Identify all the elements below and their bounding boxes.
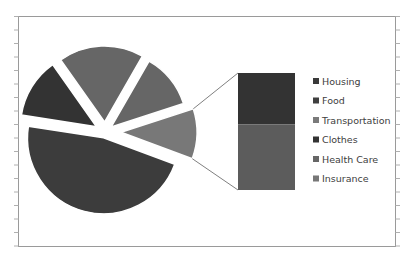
legend-label-housing: Housing	[322, 76, 361, 87]
chart-frame	[19, 17, 396, 247]
legend-swatch-health-care	[313, 156, 319, 162]
legend-swatch-food	[313, 98, 319, 104]
bar-segment-health-care	[238, 73, 295, 124]
legend-label-insurance: Insurance	[322, 173, 369, 184]
chart: HousingFoodTransportationClothesHealth C…	[0, 0, 410, 260]
legend-label-food: Food	[322, 95, 345, 106]
bar-segment-insurance	[238, 124, 295, 190]
legend-label-transportation: Transportation	[321, 115, 391, 126]
legend-label-health-care: Health Care	[322, 154, 378, 165]
legend-swatch-transportation	[313, 117, 319, 123]
legend-label-clothes: Clothes	[322, 134, 358, 145]
legend-swatch-insurance	[313, 176, 319, 182]
stacked-bar	[238, 73, 295, 190]
legend-swatch-clothes	[313, 137, 319, 143]
legend-swatch-housing	[313, 78, 319, 84]
